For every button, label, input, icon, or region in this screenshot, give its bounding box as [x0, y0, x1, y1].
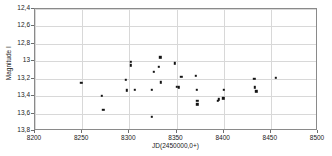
data-point [159, 56, 161, 58]
gridline-vertical [35, 9, 36, 129]
gridline-vertical [177, 9, 178, 129]
y-tick-label: 13,4 [17, 92, 30, 99]
data-point [195, 75, 197, 77]
data-point [150, 115, 152, 117]
x-tick-mark [223, 130, 224, 133]
gridline-horizontal [35, 26, 316, 27]
y-tick-mark [31, 60, 34, 61]
x-tick-label: 8450 [263, 135, 277, 142]
data-point [160, 81, 162, 83]
data-point [196, 103, 198, 105]
data-point [153, 71, 155, 73]
gridline-vertical [129, 9, 130, 129]
y-tick-label: 12,8 [17, 40, 30, 47]
data-point [125, 89, 127, 91]
y-axis-title: Magnitude I [6, 28, 13, 98]
data-point [180, 75, 182, 77]
data-point [274, 77, 276, 79]
data-point [222, 97, 224, 99]
data-point [253, 78, 255, 80]
data-point [174, 62, 176, 64]
y-tick-label: 12,4 [17, 5, 30, 12]
y-tick-mark [31, 25, 34, 26]
x-tick-mark [34, 130, 35, 133]
data-point [222, 88, 224, 90]
x-tick-label: 8350 [168, 135, 182, 142]
x-tick-mark [317, 130, 318, 133]
y-tick-label: 13,2 [17, 74, 30, 81]
gridline-vertical [271, 9, 272, 129]
y-tick-label: 13,6 [17, 109, 30, 116]
x-tick-mark [128, 130, 129, 133]
y-tick-label: 13 [23, 57, 30, 64]
x-tick-label: 8200 [27, 135, 41, 142]
y-tick-label: 12,6 [17, 22, 30, 29]
x-tick-mark [270, 130, 271, 133]
gridline-vertical [82, 9, 83, 129]
y-tick-mark [31, 95, 34, 96]
data-point [218, 98, 220, 100]
data-point [101, 95, 103, 97]
gridline-horizontal [35, 44, 316, 45]
x-tick-mark [176, 130, 177, 133]
data-point [130, 64, 132, 66]
gridline-horizontal [35, 9, 316, 10]
data-point [178, 86, 180, 88]
x-tick-label: 8300 [121, 135, 135, 142]
data-point [150, 89, 152, 91]
data-point [102, 108, 104, 110]
x-axis-title: JD(2450000,0+) [34, 143, 317, 150]
data-point [133, 89, 135, 91]
y-tick-mark [31, 43, 34, 44]
data-point [196, 88, 198, 90]
x-tick-label: 8400 [215, 135, 229, 142]
gridline-horizontal [35, 96, 316, 97]
data-point [125, 79, 127, 81]
y-tick-label: 13,8 [17, 127, 30, 134]
x-tick-label: 8500 [310, 135, 324, 142]
data-point [130, 61, 132, 63]
y-tick-mark [31, 8, 34, 9]
gridline-vertical [224, 9, 225, 129]
data-point [254, 86, 256, 88]
y-tick-mark [31, 113, 34, 114]
plot-area [34, 8, 317, 130]
data-point [196, 99, 198, 101]
y-tick-mark [31, 78, 34, 79]
x-tick-mark [81, 130, 82, 133]
data-point [80, 81, 82, 83]
data-point [158, 65, 160, 67]
gridline-horizontal [35, 114, 316, 115]
scatter-chart: 12,412,612,81313,213,413,613,8 Magnitude… [0, 0, 332, 156]
data-point [255, 90, 257, 92]
x-tick-label: 8250 [74, 135, 88, 142]
